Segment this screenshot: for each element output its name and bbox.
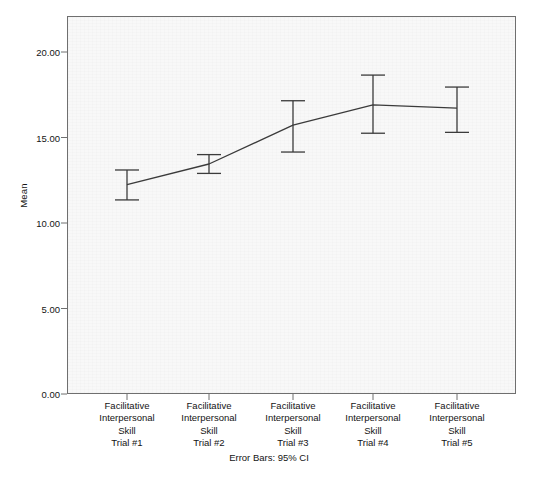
x-tick-label-line: Skill xyxy=(161,425,257,437)
error-bar-footnote: Error Bars: 95% CI xyxy=(0,452,538,463)
error-bars xyxy=(115,75,469,200)
error-bar-trial-4 xyxy=(361,75,385,133)
axis-tick-marks xyxy=(61,52,457,400)
error-bar-trial-5 xyxy=(445,87,469,132)
x-tick-label-line: Interpersonal xyxy=(161,412,257,424)
x-tick-label-trial-2: FacilitativeInterpersonalSkillTrial #2 xyxy=(161,400,257,449)
series-line xyxy=(127,105,457,185)
x-tick-label-line: Interpersonal xyxy=(409,412,505,424)
error-bar-trial-2 xyxy=(197,155,221,174)
line-chart-with-error-bars: Mean 20.0015.0010.005.000.00 Facilitativ… xyxy=(0,0,538,481)
x-tick-label-line: Trial #4 xyxy=(325,437,421,449)
x-tick-label-line: Trial #2 xyxy=(161,437,257,449)
x-tick-label-line: Trial #5 xyxy=(409,437,505,449)
error-bar-trial-1 xyxy=(115,170,139,200)
error-bar-trial-3 xyxy=(281,101,305,152)
x-tick-label-line: Skill xyxy=(409,425,505,437)
x-tick-label-line: Facilitative xyxy=(325,400,421,412)
x-tick-label-line: Skill xyxy=(325,425,421,437)
x-tick-label-trial-5: FacilitativeInterpersonalSkillTrial #5 xyxy=(409,400,505,449)
x-tick-label-trial-4: FacilitativeInterpersonalSkillTrial #4 xyxy=(325,400,421,449)
x-tick-label-line: Facilitative xyxy=(161,400,257,412)
x-tick-label-line: Interpersonal xyxy=(325,412,421,424)
mean-trend-line xyxy=(127,105,457,185)
x-tick-label-line: Facilitative xyxy=(409,400,505,412)
